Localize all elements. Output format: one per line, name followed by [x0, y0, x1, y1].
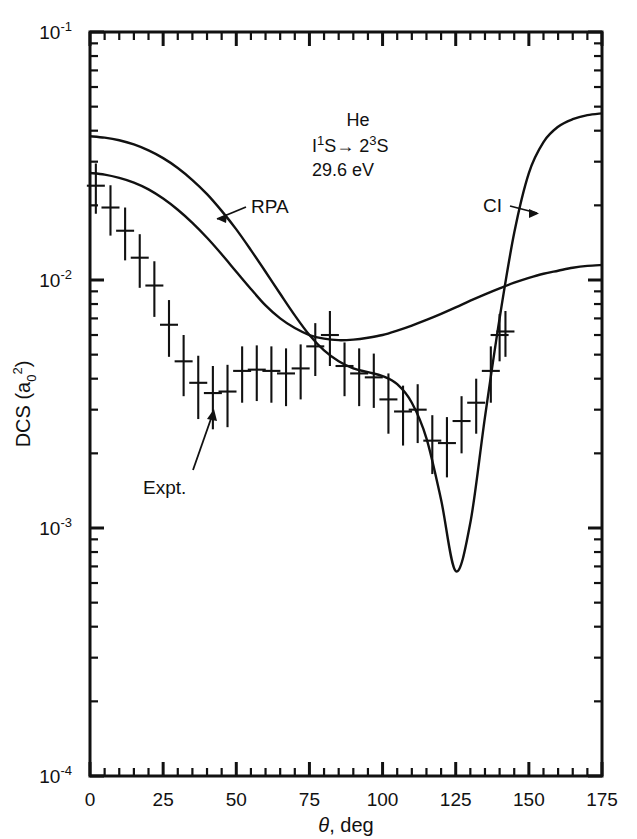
errorbar-point [336, 342, 354, 396]
errorbar-point [175, 335, 193, 396]
x-tick-label: 75 [299, 789, 320, 810]
expt-leader-line [193, 413, 213, 470]
annotation-block: He I1S→ 23S 29.6 eV [312, 110, 389, 180]
ci-arrowhead [529, 209, 539, 218]
errorbar-point [131, 234, 149, 288]
x-tick-label: 100 [367, 789, 399, 810]
transition-arrow: → [336, 136, 354, 156]
transition-end: S [377, 136, 389, 156]
expt-annotation: Expt. [143, 409, 217, 498]
x-tick-label: 175 [586, 789, 618, 810]
figure-container: 10-110-210-310-4 0255075100125150175 DCS… [0, 0, 637, 839]
transition-sup-1: 1 [317, 133, 324, 148]
ci-curve [90, 173, 602, 340]
errorbar-point [233, 346, 251, 402]
y-axis-title-suffix: ) [12, 361, 34, 368]
y-tick-label: 10-4 [39, 763, 72, 787]
x-axis-title-symbol: θ [318, 814, 329, 836]
errorbar-point [277, 348, 295, 406]
x-tick-label: 25 [153, 789, 174, 810]
errorbar-point [394, 386, 412, 446]
errorbar-point [101, 185, 119, 235]
x-tick-label: 50 [226, 789, 247, 810]
annotation-species: He [346, 110, 369, 130]
dcs-vs-angle-chart: 10-110-210-310-4 0255075100125150175 DCS… [0, 0, 637, 839]
errorbar-point [467, 379, 485, 434]
errorbar-point [262, 346, 280, 402]
y-axis-title-sup: 2 [10, 367, 25, 374]
errorbar-point [160, 300, 178, 357]
y-tick-label: 10-1 [39, 19, 72, 43]
ci-label: CI [483, 195, 502, 216]
expt-label: Expt. [143, 477, 186, 498]
experimental-data-errorbars [87, 163, 515, 477]
annotation-transition: I1S→ 23S [312, 133, 389, 156]
y-tick-label: 10-3 [39, 515, 72, 539]
x-axis-tick-labels: 0255075100125150175 [85, 789, 618, 810]
transition-post: 2 [354, 136, 369, 156]
x-axis-title-rest: , deg [329, 814, 373, 836]
errorbar-point [438, 417, 456, 477]
y-tick-label: 10-2 [39, 267, 72, 291]
rpa-arrowhead [217, 214, 227, 223]
svg-text:DCS (a02): DCS (a02) [10, 361, 39, 448]
y-axis-title: DCS (a02) [10, 361, 39, 448]
rpa-label: RPA [251, 196, 289, 217]
errorbar-point [248, 345, 266, 401]
ci-annotation: CI [483, 195, 539, 218]
x-axis-title: θ, deg [318, 814, 373, 836]
transition-mid: S [324, 136, 336, 156]
y-axis-tick-labels: 10-110-210-310-4 [39, 19, 72, 787]
errorbar-point [219, 365, 237, 427]
errorbar-point [453, 396, 471, 453]
svg-text:θ, deg: θ, deg [318, 814, 373, 836]
errorbar-point [189, 356, 207, 419]
rpa-curve [90, 113, 602, 571]
x-tick-label: 0 [85, 789, 96, 810]
errorbar-point [292, 344, 310, 399]
annotation-energy: 29.6 eV [312, 160, 374, 180]
errorbar-point [145, 261, 163, 317]
transition-sup-2: 3 [369, 133, 376, 148]
y-axis-title-prefix: DCS (a [12, 381, 34, 447]
x-tick-label: 150 [513, 789, 545, 810]
y-axis-title-sub: 0 [24, 375, 39, 382]
errorbar-point [116, 208, 134, 261]
x-tick-label: 125 [440, 789, 472, 810]
